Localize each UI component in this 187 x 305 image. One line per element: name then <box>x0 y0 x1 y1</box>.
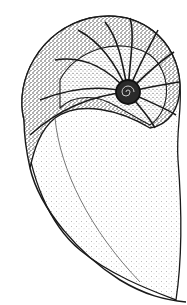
nautilus-illustration: Nautilus shell cross-section illustratio… <box>0 0 187 305</box>
nautilus-shell-drawing <box>0 0 187 305</box>
umbilicus-spiral <box>116 80 140 104</box>
